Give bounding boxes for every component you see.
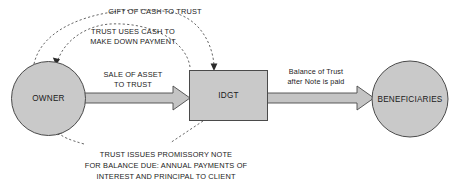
trust-uses-cash-label: TRUST USES CASH TO MAKE DOWN PAYMENT <box>90 27 176 46</box>
node-owner[interactable]: OWNER <box>12 62 86 136</box>
promissory-note-arc <box>170 121 203 143</box>
promissory-note-line-3: INTEREST AND PRINCIPAL TO CLIENT <box>96 172 235 181</box>
sale-of-asset-label-line-2: TO TRUST <box>114 80 152 89</box>
gift-of-cash-label: GIFT OF CASH TO TRUST <box>108 7 202 16</box>
promissory-note-line-2: FOR BALANCE DUE: ANNUAL PAYMENTS OF <box>85 161 248 170</box>
sale-of-asset-label: SALE OF ASSET TO TRUST <box>103 70 162 89</box>
dashed-edge-promissory-note <box>57 121 203 144</box>
idgt-flow-diagram: OWNER IDGT BENEFICIARIES GIFT OF CASH TO… <box>0 0 457 191</box>
promissory-note-arc-left <box>59 133 84 144</box>
trust-uses-cash-label-line-1: TRUST USES CASH TO <box>91 27 175 36</box>
diagram-canvas: OWNER IDGT BENEFICIARIES GIFT OF CASH TO… <box>0 0 457 191</box>
balance-of-trust-label: Balance of Trust after Note is paid <box>287 67 344 86</box>
sale-of-asset-arrow <box>84 86 190 110</box>
promissory-note-line-1: TRUST ISSUES PROMISSORY NOTE <box>100 150 232 159</box>
balance-of-trust-arrow <box>267 86 374 110</box>
trust-uses-cash-label-line-2: MAKE DOWN PAYMENT <box>90 37 176 46</box>
node-beneficiaries[interactable]: BENEFICIARIES <box>372 61 448 137</box>
sale-of-asset-label-line-1: SALE OF ASSET <box>103 70 162 79</box>
gift-of-cash-arrowhead <box>211 64 218 72</box>
balance-of-trust-label-line-1: Balance of Trust <box>289 67 343 76</box>
owner-label: OWNER <box>32 94 64 103</box>
balance-of-trust-label-line-2: after Note is paid <box>287 77 344 86</box>
promissory-note-caption: TRUST ISSUES PROMISSORY NOTE FOR BALANCE… <box>85 150 248 181</box>
idgt-label: IDGT <box>218 91 238 100</box>
node-idgt[interactable]: IDGT <box>190 71 268 121</box>
beneficiaries-label: BENEFICIARIES <box>378 95 443 104</box>
